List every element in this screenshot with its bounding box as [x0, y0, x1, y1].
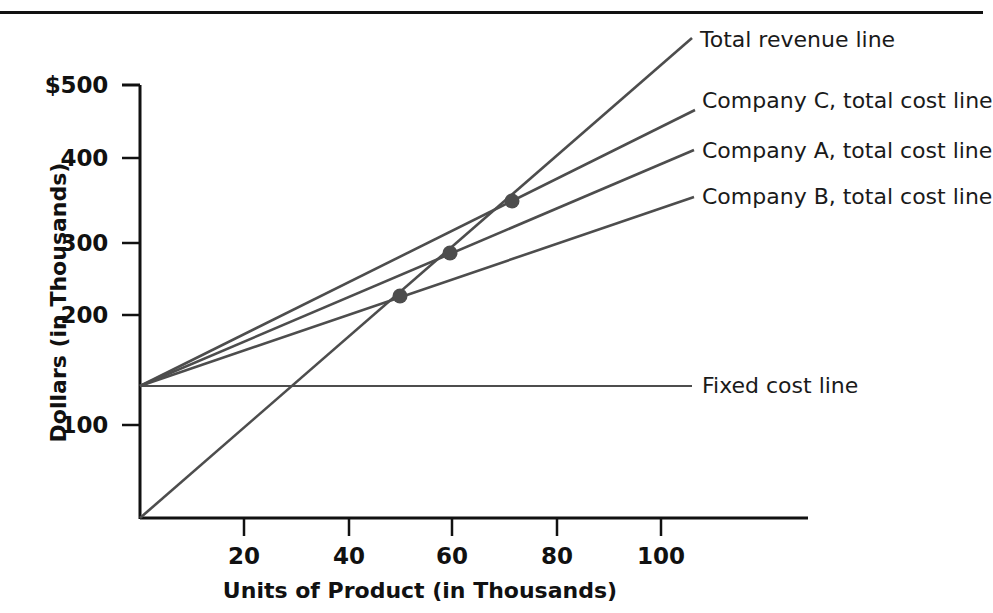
- series-line-company-c-total-cost: [140, 110, 695, 386]
- series-label-company-c: Company C, total cost line: [702, 88, 993, 113]
- x-tick-label-100: 100: [621, 543, 701, 569]
- breakeven-marker-company-a: [443, 246, 458, 261]
- x-axis-title: Units of Product (in Thousands): [140, 578, 700, 603]
- series-label-company-a: Company A, total cost line: [702, 138, 992, 163]
- x-tick-label-40: 40: [309, 543, 389, 569]
- breakeven-marker-company-c: [505, 194, 520, 209]
- series-label-fixed-cost: Fixed cost line: [702, 373, 858, 398]
- y-tick-label-500: $500: [30, 72, 108, 98]
- series-line-company-a-total-cost: [140, 150, 694, 386]
- series-label-total-revenue: Total revenue line: [700, 27, 895, 52]
- series-line-company-b-total-cost: [140, 197, 694, 386]
- series-label-company-b: Company B, total cost line: [702, 184, 992, 209]
- x-tick-label-60: 60: [412, 543, 492, 569]
- breakeven-marker-company-b: [393, 289, 408, 304]
- x-tick-label-80: 80: [517, 543, 597, 569]
- x-tick-label-20: 20: [204, 543, 284, 569]
- y-axis-title: Dollars (in Thousands): [46, 153, 71, 453]
- series-line-total-revenue: [140, 38, 692, 518]
